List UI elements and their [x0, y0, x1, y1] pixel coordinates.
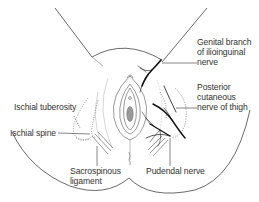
label-line: Ischial tuberosity [14, 102, 76, 112]
label-line: Ischial spine [10, 128, 56, 138]
right-ischium [160, 88, 186, 138]
label-genital-branch-ilioinguinal-nerve: Genital branch of ilioinguinal nerve [197, 37, 252, 67]
label-line: Pudendal nerve [146, 166, 205, 176]
label-line: Genital branch [197, 37, 252, 47]
label-ischial-tuberosity: Ischial tuberosity [14, 102, 76, 112]
label-posterior-cutaneous-nerve-of-thigh: Posterior cutaneous nerve of thigh [197, 82, 248, 112]
label-line: ligament [70, 176, 121, 186]
label-line: cutaneous [197, 92, 248, 102]
label-line: nerve of thigh [197, 102, 248, 112]
nerves [138, 60, 185, 146]
label-sacrospinous-ligament: Sacrospinous ligament [70, 166, 121, 186]
vaginal-opening [127, 107, 133, 122]
label-line: of ilioinguinal [197, 47, 252, 57]
label-pudendal-nerve: Pudendal nerve [146, 166, 205, 176]
perineum-nerve-diagram: Genital branch of ilioinguinal nerve Pos… [0, 0, 259, 202]
label-line: Posterior [197, 82, 248, 92]
label-ischial-spine: Ischial spine [10, 128, 56, 138]
label-line: Sacrospinous [70, 166, 121, 176]
buttock-outlines [12, 110, 250, 193]
label-line: nerve [197, 57, 252, 67]
thigh-outlines [55, 8, 207, 66]
